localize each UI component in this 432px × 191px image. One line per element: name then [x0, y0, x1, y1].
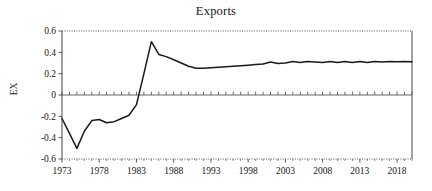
- svg-text:1988: 1988: [164, 166, 183, 176]
- x-minor-ticks: [69, 159, 412, 161]
- svg-text:1998: 1998: [239, 166, 258, 176]
- svg-text:2013: 2013: [350, 166, 369, 176]
- svg-text:-0.2: -0.2: [41, 112, 56, 122]
- x-axis-ticks: [62, 159, 397, 163]
- line-chart-plot: 0.60.40.20-0.2-0.4-0.6 19731978198319881…: [0, 0, 432, 191]
- svg-text:-0.6: -0.6: [41, 154, 56, 164]
- svg-text:-0.4: -0.4: [41, 133, 56, 143]
- svg-text:1978: 1978: [90, 166, 109, 176]
- y-tick-labels: 0.60.40.20-0.2-0.4-0.6: [41, 26, 56, 164]
- zero-line-ticks: [62, 92, 412, 95]
- svg-text:0.2: 0.2: [44, 69, 56, 79]
- svg-text:2018: 2018: [388, 166, 407, 176]
- svg-text:1983: 1983: [127, 166, 146, 176]
- x-tick-labels: 1973197819831988199319982003200820132018: [53, 166, 407, 176]
- svg-text:1993: 1993: [201, 166, 220, 176]
- svg-text:2003: 2003: [276, 166, 295, 176]
- chart-figure: Exports EX 0.60.40.20-0.2-0.4-0.6 197319…: [0, 0, 432, 191]
- svg-text:0.4: 0.4: [44, 48, 56, 58]
- svg-text:1973: 1973: [53, 166, 72, 176]
- svg-text:0: 0: [51, 90, 56, 100]
- svg-text:2008: 2008: [313, 166, 332, 176]
- svg-text:0.6: 0.6: [44, 26, 56, 36]
